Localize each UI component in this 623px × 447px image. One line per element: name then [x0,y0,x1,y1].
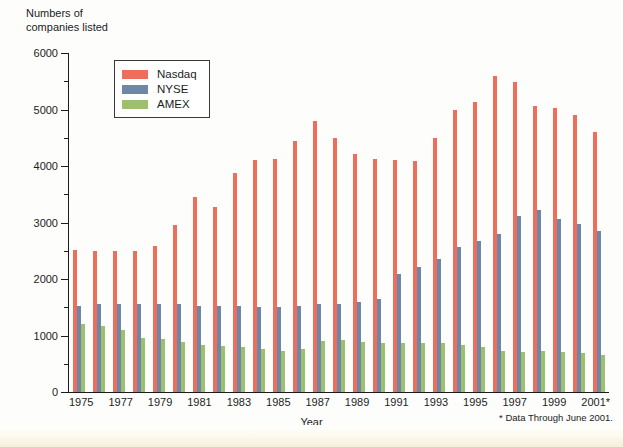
bar-group [589,53,609,392]
bar-amex [121,330,125,392]
bar-group [489,53,509,392]
bar-amex [301,349,305,392]
bar-amex [601,355,605,392]
bar-group [349,53,369,392]
y-tick-label: 3000 [34,217,58,229]
bar-amex [221,346,225,392]
bar-amex [241,347,245,392]
bar-group [389,53,409,392]
legend-label-nyse: NYSE [157,83,188,95]
x-axis-tick-labels: 1975197719791981198319851987198919911993… [69,396,610,412]
x-tick-label-blank [93,396,108,412]
bar-amex [81,324,85,392]
x-tick-label-blank [488,396,503,412]
bar-group [309,53,329,392]
bar-group [469,53,489,392]
x-tick-label: 1987 [305,396,329,412]
x-tick-label-blank [251,396,266,412]
bar-amex [401,343,405,392]
x-tick-label: 1977 [108,396,132,412]
bar-amex [201,345,205,392]
amex-swatch-icon [122,100,148,109]
x-tick-label: 1979 [148,396,172,412]
x-tick-label-blank [566,396,581,412]
bar-amex [541,351,545,392]
bar-group [209,53,229,392]
x-tick-label: 1993 [424,396,448,412]
bar-amex [101,326,105,392]
y-tick-major [61,166,68,167]
chart-figure: Numbers of companies listed 010002000300… [0,0,623,447]
bar-group [69,53,89,392]
bar-group [409,53,429,392]
bar-group [269,53,289,392]
legend-label-amex: AMEX [157,98,190,110]
x-tick-label: 1983 [227,396,251,412]
y-tick-minor [64,194,68,195]
y-tick-major [61,279,68,280]
y-tick-major [61,53,68,54]
y-axis-title: Numbers of companies listed [26,6,108,34]
y-tick-minor [64,364,68,365]
x-tick-label-blank [291,396,306,412]
x-tick-label: 1975 [69,396,93,412]
legend-entry-nasdaq: Nasdaq [122,67,197,81]
bar-group [549,53,569,392]
y-tick-label: 4000 [34,160,58,172]
footnote: * Data Through June 2001. [499,412,613,423]
bar-amex [141,338,145,392]
bar-amex [381,343,385,392]
y-tick-label: 2000 [34,273,58,285]
x-tick-label-blank [527,396,542,412]
x-tick-label: 1981 [187,396,211,412]
y-tick-label: 6000 [34,47,58,59]
x-tick-label-blank [409,396,424,412]
x-tick-label-blank [212,396,227,412]
bar-amex [481,347,485,392]
x-tick-label-blank [369,396,384,412]
legend: Nasdaq NYSE AMEX [114,60,210,118]
bar-amex [461,345,465,392]
x-tick-label: 1989 [345,396,369,412]
bar-amex [421,343,425,392]
x-tick-label: 2001* [581,396,610,412]
y-tick-major [61,336,68,337]
y-tick-minor [64,81,68,82]
bar-amex [361,342,365,392]
bar-group [229,53,249,392]
bar-group [289,53,309,392]
bar-amex [261,349,265,392]
y-tick-major [61,392,68,393]
legend-entry-nyse: NYSE [122,82,197,96]
y-tick-minor [64,307,68,308]
x-tick-label-blank [448,396,463,412]
bar-group [429,53,449,392]
x-tick-label-blank [133,396,148,412]
x-tick-label: 1999 [542,396,566,412]
x-tick-label-blank [330,396,345,412]
bar-amex [341,340,345,392]
y-tick-label: 0 [52,386,58,398]
nasdaq-swatch-icon [122,70,148,79]
bar-amex [281,351,285,392]
bar-amex [501,351,505,392]
bar-amex [581,353,585,392]
bar-amex [441,343,445,392]
x-tick-label-blank [172,396,187,412]
y-tick-label: 5000 [34,104,58,116]
bar-amex [161,339,165,392]
x-tick-label: 1985 [266,396,290,412]
bar-group [369,53,389,392]
bar-group [329,53,349,392]
bar-group [569,53,589,392]
y-tick-minor [64,251,68,252]
x-tick-label: 1997 [502,396,526,412]
nyse-swatch-icon [122,85,148,94]
legend-label-nasdaq: Nasdaq [157,68,197,80]
bar-group [509,53,529,392]
bar-group [249,53,269,392]
legend-entry-amex: AMEX [122,97,197,111]
bar-amex [521,352,525,392]
bar-amex [181,342,185,392]
x-tick-label: 1991 [384,396,408,412]
